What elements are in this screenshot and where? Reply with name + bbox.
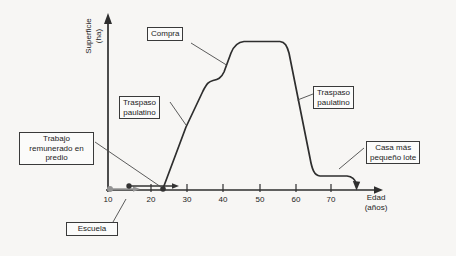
x-tick-label-50: 50 xyxy=(250,195,270,204)
escuela-arrowhead-icon xyxy=(133,186,140,192)
x-tick-label-60: 60 xyxy=(286,195,306,204)
y-axis-title: Superficie (ha) xyxy=(82,1,106,71)
superficie-curve xyxy=(163,42,357,189)
x-tick-label-30: 30 xyxy=(177,195,197,204)
x-tick-label-10: 10 xyxy=(98,195,118,204)
traspaso-left-leader-line xyxy=(170,102,186,125)
diagram-canvas xyxy=(0,0,456,256)
x-axis-title: Edad (años) xyxy=(354,193,398,212)
x-tick-label-40: 40 xyxy=(213,195,233,204)
traspaso-paulatino-right-label-box: Traspaso paulatino xyxy=(313,86,354,109)
trabajo-remunerado-label-box: Trabajo remunerado en predio xyxy=(19,132,94,165)
curve-end-arrowhead-icon xyxy=(353,181,360,191)
x-tick-label-70: 70 xyxy=(321,195,341,204)
x-tick-label-20: 20 xyxy=(141,195,161,204)
life-cycle-diagram: Superficie (ha) Edad (años) 10 20 30 40 … xyxy=(0,0,456,256)
traspaso-paulatino-left-label-box: Traspaso paulatino xyxy=(119,96,160,119)
trabajo-leader-line xyxy=(95,142,161,187)
compra-label-box: Compra xyxy=(147,27,183,41)
casa-leader-line xyxy=(339,148,364,169)
curve-start-dot xyxy=(160,186,166,192)
traspaso-right-leader-line xyxy=(298,94,314,100)
compra-leader-line xyxy=(191,43,227,65)
escuela-label-box: Escuela xyxy=(66,222,118,236)
trabajo-period-arrowhead-icon xyxy=(172,183,179,188)
casa-label-box: Casa más pequeño lote xyxy=(366,141,420,164)
